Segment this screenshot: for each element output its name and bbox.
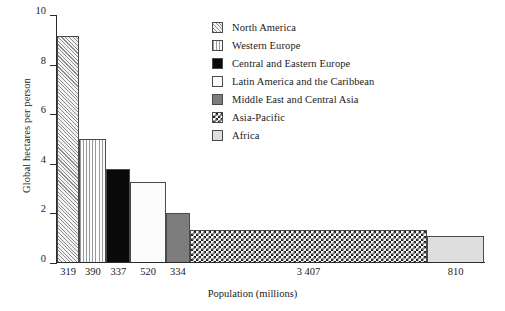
- x-axis-tick-label: 520: [140, 266, 156, 277]
- y-axis-tick: [50, 65, 57, 66]
- bar: [427, 236, 484, 263]
- x-axis-line: [56, 262, 485, 263]
- x-axis-tick-label: 390: [85, 266, 101, 277]
- legend-item: North America: [212, 18, 452, 36]
- legend-item: Central and Eastern Europe: [212, 54, 452, 72]
- legend-swatch-icon: [212, 22, 223, 33]
- legend-swatch-icon: [212, 76, 223, 87]
- legend-item: Western Europe: [212, 36, 452, 54]
- y-axis-tick-label: 2: [26, 208, 46, 209]
- y-axis-tick-label: 8: [26, 60, 46, 61]
- y-axis-title: Global hectares per person: [21, 36, 32, 236]
- y-axis-tick: [50, 213, 57, 214]
- y-axis-tick-label: 4: [26, 159, 46, 160]
- y-axis-tick: [50, 15, 57, 16]
- legend-item-label: Asia-Pacific: [232, 112, 285, 123]
- x-axis-tick-label: 334: [170, 266, 186, 277]
- x-axis-title: Population (millions): [0, 288, 505, 299]
- y-axis-tick-label: 6: [26, 109, 46, 110]
- legend-swatch-icon: [212, 112, 223, 123]
- bar: [166, 213, 189, 263]
- legend-swatch-icon: [212, 40, 223, 51]
- y-axis-tick: [50, 164, 57, 165]
- y-axis-tick: [50, 114, 57, 115]
- legend-item-label: Central and Eastern Europe: [232, 58, 350, 69]
- x-axis-tick-label: 319: [60, 266, 76, 277]
- bar: [130, 182, 166, 263]
- legend-item-label: Western Europe: [232, 40, 301, 51]
- bar: [57, 36, 79, 263]
- legend-item: Asia-Pacific: [212, 108, 452, 126]
- bar: [79, 139, 106, 263]
- x-axis-tick-label: 810: [448, 266, 464, 277]
- y-axis-tick: [50, 263, 57, 264]
- bar: [190, 230, 428, 263]
- legend-item-label: Latin America and the Caribbean: [232, 76, 374, 87]
- y-axis-tick-label: 0: [26, 258, 46, 259]
- legend-swatch-icon: [212, 94, 223, 105]
- legend-item: Middle East and Central Asia: [212, 90, 452, 108]
- legend-swatch-icon: [212, 130, 223, 141]
- bar: [106, 169, 130, 263]
- chart-legend: North AmericaWestern EuropeCentral and E…: [212, 18, 452, 145]
- legend-swatch-icon: [212, 58, 223, 69]
- x-axis-tick-label: 3 407: [297, 266, 321, 277]
- legend-item: Africa: [212, 127, 452, 145]
- y-axis-tick-label: 10: [26, 10, 46, 11]
- x-axis-tick-label: 337: [110, 266, 126, 277]
- legend-item-label: North America: [232, 22, 296, 33]
- legend-item-label: Africa: [232, 130, 259, 141]
- legend-item: Latin America and the Caribbean: [212, 72, 452, 90]
- legend-item-label: Middle East and Central Asia: [232, 94, 358, 105]
- chart-figure: Global hectares per person 0246810 31939…: [0, 0, 505, 311]
